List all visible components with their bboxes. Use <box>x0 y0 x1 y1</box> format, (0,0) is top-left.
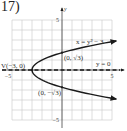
parabola-chart: −555−5yV(−3, 0)(0, √3)(0, −√3)x = y² − 3… <box>0 0 127 131</box>
point-y-intercept-lower <box>61 86 63 88</box>
y-tick-label: −5 <box>53 117 59 123</box>
vertex-label: V(−3, 0) <box>1 62 26 70</box>
labels: −555−5yV(−3, 0)(0, √3)(0, −√3)x = y² − 3… <box>1 6 114 123</box>
equation-label: x = y² − 3 <box>76 38 104 46</box>
x-tick-label: 5 <box>111 73 114 79</box>
intercept-lower-label: (0, −√3) <box>38 89 62 97</box>
y-axis-name: y <box>63 6 67 12</box>
point-vertex <box>31 69 33 71</box>
point-y-intercept-upper <box>61 52 63 54</box>
intercept-upper-label: (0, √3) <box>64 54 84 62</box>
y-tick-label: 5 <box>56 17 59 23</box>
x-tick-label: −5 <box>5 73 11 79</box>
symmetry-label: y = 0 <box>96 60 111 68</box>
